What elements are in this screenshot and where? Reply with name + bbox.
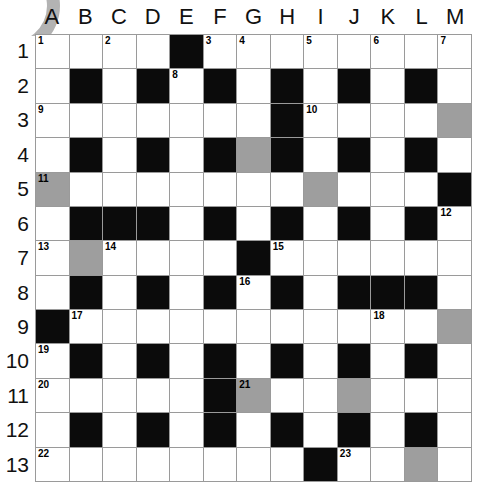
grid-cell-i12[interactable] <box>304 413 337 446</box>
grid-cell-c1[interactable]: 2 <box>103 35 136 68</box>
grid-cell-c7[interactable]: 14 <box>103 241 136 274</box>
grid-cell-g11[interactable]: 21 <box>237 379 270 412</box>
grid-cell-a13[interactable]: 22 <box>36 448 69 481</box>
grid-cell-f1[interactable]: 3 <box>204 35 237 68</box>
grid-cell-e4[interactable] <box>170 138 203 171</box>
grid-cell-g10[interactable] <box>237 344 270 377</box>
grid-cell-c5[interactable] <box>103 173 136 206</box>
grid-cell-a2[interactable] <box>36 69 69 102</box>
grid-cell-h7[interactable]: 15 <box>271 241 304 274</box>
grid-cell-l13[interactable] <box>405 448 438 481</box>
grid-cell-c8[interactable] <box>103 276 136 309</box>
grid-cell-k4[interactable] <box>371 138 404 171</box>
grid-cell-b3[interactable] <box>70 104 103 137</box>
grid-cell-g4[interactable] <box>237 138 270 171</box>
crossword-grid[interactable]: 1234567891011121314151617181920212223 <box>35 34 472 482</box>
grid-cell-e9[interactable] <box>170 310 203 343</box>
grid-cell-m3[interactable] <box>438 104 471 137</box>
grid-cell-a1[interactable]: 1 <box>36 35 69 68</box>
grid-cell-e8[interactable] <box>170 276 203 309</box>
grid-cell-f5[interactable] <box>204 173 237 206</box>
grid-cell-i8[interactable] <box>304 276 337 309</box>
grid-cell-a5[interactable]: 11 <box>36 173 69 206</box>
grid-cell-l1[interactable] <box>405 35 438 68</box>
grid-cell-e12[interactable] <box>170 413 203 446</box>
grid-cell-i3[interactable]: 10 <box>304 104 337 137</box>
grid-cell-e7[interactable] <box>170 241 203 274</box>
grid-cell-j1[interactable] <box>338 35 371 68</box>
grid-cell-c4[interactable] <box>103 138 136 171</box>
grid-cell-g12[interactable] <box>237 413 270 446</box>
grid-cell-g8[interactable]: 16 <box>237 276 270 309</box>
grid-cell-j3[interactable] <box>338 104 371 137</box>
grid-cell-k12[interactable] <box>371 413 404 446</box>
grid-cell-c11[interactable] <box>103 379 136 412</box>
grid-cell-a12[interactable] <box>36 413 69 446</box>
grid-cell-c3[interactable] <box>103 104 136 137</box>
grid-cell-k10[interactable] <box>371 344 404 377</box>
grid-cell-m8[interactable] <box>438 276 471 309</box>
grid-cell-e13[interactable] <box>170 448 203 481</box>
grid-cell-k1[interactable]: 6 <box>371 35 404 68</box>
grid-cell-m6[interactable]: 12 <box>438 207 471 240</box>
grid-cell-c13[interactable] <box>103 448 136 481</box>
grid-cell-m1[interactable]: 7 <box>438 35 471 68</box>
grid-cell-e10[interactable] <box>170 344 203 377</box>
grid-cell-a6[interactable] <box>36 207 69 240</box>
grid-cell-d11[interactable] <box>137 379 170 412</box>
grid-cell-b13[interactable] <box>70 448 103 481</box>
grid-cell-a10[interactable]: 19 <box>36 344 69 377</box>
grid-cell-i2[interactable] <box>304 69 337 102</box>
grid-cell-k5[interactable] <box>371 173 404 206</box>
grid-cell-d1[interactable] <box>137 35 170 68</box>
grid-cell-g1[interactable]: 4 <box>237 35 270 68</box>
grid-cell-b5[interactable] <box>70 173 103 206</box>
grid-cell-l5[interactable] <box>405 173 438 206</box>
grid-cell-i10[interactable] <box>304 344 337 377</box>
grid-cell-m11[interactable] <box>438 379 471 412</box>
grid-cell-e2[interactable]: 8 <box>170 69 203 102</box>
grid-cell-m7[interactable] <box>438 241 471 274</box>
grid-cell-a8[interactable] <box>36 276 69 309</box>
grid-cell-e11[interactable] <box>170 379 203 412</box>
grid-cell-g13[interactable] <box>237 448 270 481</box>
grid-cell-i7[interactable] <box>304 241 337 274</box>
grid-cell-m2[interactable] <box>438 69 471 102</box>
grid-cell-i9[interactable] <box>304 310 337 343</box>
grid-cell-m12[interactable] <box>438 413 471 446</box>
grid-cell-i6[interactable] <box>304 207 337 240</box>
grid-cell-k3[interactable] <box>371 104 404 137</box>
grid-cell-c2[interactable] <box>103 69 136 102</box>
grid-cell-a4[interactable] <box>36 138 69 171</box>
grid-cell-g9[interactable] <box>237 310 270 343</box>
grid-cell-k13[interactable] <box>371 448 404 481</box>
grid-cell-k2[interactable] <box>371 69 404 102</box>
grid-cell-g2[interactable] <box>237 69 270 102</box>
grid-cell-c9[interactable] <box>103 310 136 343</box>
grid-cell-h9[interactable] <box>271 310 304 343</box>
grid-cell-h5[interactable] <box>271 173 304 206</box>
grid-cell-j9[interactable] <box>338 310 371 343</box>
grid-cell-m10[interactable] <box>438 344 471 377</box>
grid-cell-g3[interactable] <box>237 104 270 137</box>
grid-cell-k11[interactable] <box>371 379 404 412</box>
grid-cell-a11[interactable]: 20 <box>36 379 69 412</box>
grid-cell-c12[interactable] <box>103 413 136 446</box>
grid-cell-m4[interactable] <box>438 138 471 171</box>
grid-cell-m13[interactable] <box>438 448 471 481</box>
grid-cell-k6[interactable] <box>371 207 404 240</box>
grid-cell-j13[interactable]: 23 <box>338 448 371 481</box>
grid-cell-d9[interactable] <box>137 310 170 343</box>
grid-cell-b9[interactable]: 17 <box>70 310 103 343</box>
grid-cell-h1[interactable] <box>271 35 304 68</box>
grid-cell-d5[interactable] <box>137 173 170 206</box>
grid-cell-d13[interactable] <box>137 448 170 481</box>
grid-cell-a3[interactable]: 9 <box>36 104 69 137</box>
grid-cell-e5[interactable] <box>170 173 203 206</box>
grid-cell-e3[interactable] <box>170 104 203 137</box>
grid-cell-b7[interactable] <box>70 241 103 274</box>
grid-cell-h13[interactable] <box>271 448 304 481</box>
grid-cell-j7[interactable] <box>338 241 371 274</box>
grid-cell-l7[interactable] <box>405 241 438 274</box>
grid-cell-i5[interactable] <box>304 173 337 206</box>
